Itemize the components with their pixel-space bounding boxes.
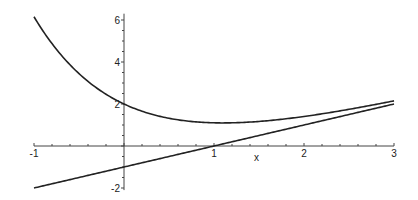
- x-tick-label: 3: [391, 148, 397, 159]
- series-group: [34, 17, 394, 188]
- plot-area: -1123-2246 x: [0, 0, 418, 200]
- series-curve: [34, 17, 394, 123]
- axes: [34, 14, 394, 190]
- x-tick-label: 1: [211, 148, 217, 159]
- x-tick-label: 2: [301, 148, 307, 159]
- y-tick-label: 6: [114, 15, 120, 26]
- tick-labels: -1123-2246: [30, 15, 398, 194]
- y-tick-label: 4: [114, 57, 120, 68]
- y-tick-label: -2: [111, 183, 120, 194]
- x-axis-label: x: [254, 152, 259, 163]
- axis-ticks: [34, 20, 394, 188]
- x-tick-label: -1: [30, 148, 39, 159]
